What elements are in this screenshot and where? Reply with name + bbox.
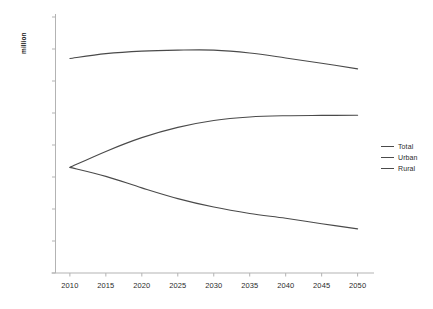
x-axis-tick-label: 2025 — [169, 281, 186, 290]
legend-item[interactable]: Urban — [381, 152, 433, 163]
x-axis-tick-label: 2010 — [61, 281, 78, 290]
x-axis-tick-label: 2035 — [241, 281, 258, 290]
legend-line-icon — [381, 168, 394, 169]
chart-container: million -2004006008001,0001,2001,4001,60… — [0, 0, 433, 309]
legend: TotalUrbanRural — [381, 141, 433, 174]
legend-line-icon — [381, 146, 394, 147]
legend-label: Total — [398, 143, 413, 150]
x-axis-tick-label: 2040 — [277, 281, 294, 290]
x-axis-tick-label: 2015 — [97, 281, 114, 290]
x-axis-tick-label: 2045 — [313, 281, 330, 290]
legend-label: Rural — [398, 165, 415, 172]
x-axis-tick-labels: 201020152020202520302035204020452050 — [0, 0, 433, 309]
x-axis-tick-label: 2030 — [205, 281, 222, 290]
x-axis-tick-label: 2050 — [349, 281, 366, 290]
legend-line-icon — [381, 157, 394, 158]
legend-label: Urban — [398, 154, 418, 161]
x-axis-tick-label: 2020 — [133, 281, 150, 290]
legend-item[interactable]: Rural — [381, 163, 433, 174]
legend-item[interactable]: Total — [381, 141, 433, 152]
